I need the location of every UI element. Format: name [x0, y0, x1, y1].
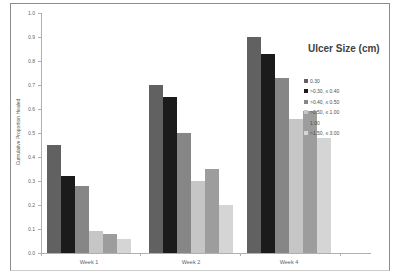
legend-item: >0.40, ≤ 0.50	[304, 92, 339, 99]
y-tick-mark	[38, 37, 41, 38]
y-tick-label: 0.6	[21, 106, 35, 112]
bar-week4-series2	[261, 54, 275, 253]
x-tick-mark	[240, 253, 241, 256]
legend-item: 0.30	[304, 71, 320, 78]
x-category-label: Week 2	[169, 259, 213, 265]
bar-week2-series2	[163, 97, 177, 253]
y-tick-mark	[38, 61, 41, 62]
legend-item: >1.50, ≤ 3.00	[304, 124, 339, 131]
x-category-label: Week 4	[267, 259, 311, 265]
x-tick-mark	[340, 253, 341, 256]
y-tick-label: 0.3	[21, 178, 35, 184]
bar-week1-series4	[89, 231, 103, 253]
legend-item: 1.00	[304, 113, 320, 120]
y-tick-label: 0.8	[21, 58, 35, 64]
x-category-label: Week 1	[67, 259, 111, 265]
chart-figure-border: Cumulative Proportion Healed 1.00.90.80.…	[10, 3, 390, 271]
bar-week4-series3	[275, 78, 289, 253]
y-axis-line	[41, 13, 42, 253]
y-tick-label: 0.1	[21, 226, 35, 232]
legend-label: >1.50, ≤ 3.00	[310, 130, 339, 136]
y-tick-label: 0.2	[21, 202, 35, 208]
y-tick-label: 0.4	[21, 154, 35, 160]
y-tick-label: 0.9	[21, 34, 35, 40]
bar-week4-series4	[289, 119, 303, 253]
bar-week1-series3	[75, 186, 89, 253]
y-tick-mark	[38, 109, 41, 110]
y-tick-label: 0.0	[21, 250, 35, 256]
legend-marker-icon	[304, 131, 308, 135]
x-tick-mark	[140, 253, 141, 256]
plot-area: Cumulative Proportion Healed 1.00.90.80.…	[1, 1, 393, 277]
y-tick-mark	[38, 229, 41, 230]
bar-week1-series5	[103, 234, 117, 253]
legend-item: >0.50, ≤ 1.00	[304, 103, 339, 110]
y-tick-label: 0.7	[21, 82, 35, 88]
bar-week4-series6	[317, 138, 331, 253]
y-tick-mark	[38, 133, 41, 134]
y-tick-mark	[38, 13, 41, 14]
y-tick-mark	[38, 181, 41, 182]
bar-week2-series1	[149, 85, 163, 253]
x-axis-line	[41, 253, 371, 254]
legend-title: Ulcer Size (cm)	[308, 43, 380, 54]
bar-week1-series6	[117, 239, 131, 253]
y-tick-mark	[38, 157, 41, 158]
bar-week2-series5	[205, 169, 219, 253]
y-tick-mark	[38, 205, 41, 206]
legend-item: >0.30, ≤ 0.40	[304, 82, 339, 89]
page: { "chart_data": { "type": "bar", "title"…	[0, 0, 393, 277]
x-tick-mark	[41, 253, 42, 256]
bar-week1-series1	[47, 145, 61, 253]
bar-week4-series1	[247, 37, 261, 253]
bar-week2-series3	[177, 133, 191, 253]
bar-week2-series4	[191, 181, 205, 253]
y-tick-label: 0.5	[21, 130, 35, 136]
y-tick-mark	[38, 85, 41, 86]
bar-week1-series2	[61, 176, 75, 253]
bar-week2-series6	[219, 205, 233, 253]
y-tick-label: 1.0	[21, 10, 35, 16]
